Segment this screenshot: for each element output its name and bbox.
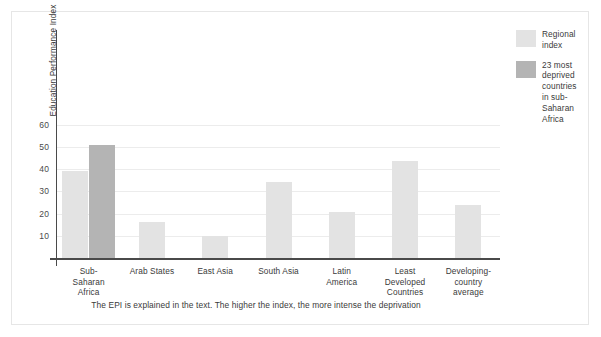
bar-0-1 [139, 222, 165, 258]
bar-0-4 [329, 212, 355, 258]
bar-0-3 [266, 182, 292, 258]
bar-0-2 [202, 236, 228, 258]
legend-label-line: Regional [542, 29, 592, 40]
y-tick-label-20: 20 [23, 209, 49, 219]
legend-label-line: in sub- [542, 92, 592, 103]
y-tick-label-40: 40 [23, 164, 49, 174]
x-tick-label-line: country [431, 277, 505, 288]
bar-0-6 [455, 205, 481, 258]
legend-label: 23 mostdeprivedcountriesin sub-SaharanAf… [542, 60, 592, 125]
legend-label: Regionalindex [542, 29, 592, 51]
legend-label-line: Saharan [542, 103, 592, 114]
y-axis-title: Education Performance Index [49, 0, 58, 146]
legend-label-line: countries [542, 81, 592, 92]
x-tick-label-6: Developing-countryaverage [431, 266, 505, 298]
legend-swatch-icon [516, 30, 536, 47]
chart-legend: Regionalindex23 mostdeprivedcountriesin … [516, 29, 592, 133]
chart-figure: 102030405060 Education Performance Index… [0, 0, 601, 337]
bar-1-0 [89, 145, 115, 258]
chart-caption: The EPI is explained in the text. The hi… [12, 300, 500, 310]
y-tick-label-60: 60 [23, 120, 49, 130]
x-tick-label-line: Africa [52, 287, 126, 298]
gridline-60 [57, 125, 500, 126]
x-axis-line [50, 258, 500, 260]
legend-label-line: deprived [542, 70, 592, 81]
y-tick-label-50: 50 [23, 142, 49, 152]
gridline-50 [57, 147, 500, 148]
legend-label-line: index [542, 40, 592, 51]
x-tick-label-line: Saharan [52, 277, 126, 288]
legend-entry-0[interactable]: Regionalindex [516, 29, 592, 51]
x-tick-label-line: average [431, 287, 505, 298]
gridline-40 [57, 169, 500, 170]
bar-0-5 [392, 161, 418, 258]
y-tick-label-30: 30 [23, 186, 49, 196]
legend-entry-1[interactable]: 23 mostdeprivedcountriesin sub-SaharanAf… [516, 60, 592, 125]
legend-label-line: 23 most [542, 60, 592, 71]
legend-swatch-icon [516, 61, 536, 78]
legend-label-line: Africa [542, 114, 592, 125]
y-tick-label-10: 10 [23, 231, 49, 241]
bar-0-0 [62, 171, 88, 258]
x-tick-label-line: Developing- [431, 266, 505, 277]
